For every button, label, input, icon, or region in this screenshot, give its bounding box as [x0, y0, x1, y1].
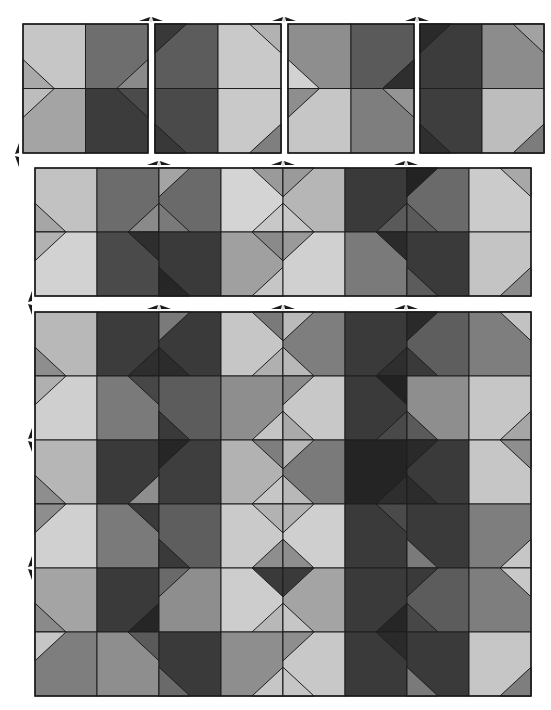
composite-8x6	[35, 312, 531, 696]
tile-cell	[407, 504, 469, 568]
double-arrow-horizontal-icon	[147, 161, 171, 166]
tile-cell	[221, 568, 283, 632]
tile-cell	[407, 168, 469, 232]
tile-cell	[469, 312, 531, 376]
tile-cell	[159, 632, 221, 696]
tile-cell	[345, 168, 407, 232]
tile-cell	[218, 24, 281, 89]
tile-cell	[35, 232, 97, 296]
tile-cell	[283, 232, 345, 296]
tile-cell	[35, 504, 97, 568]
double-arrow-horizontal-icon	[147, 305, 171, 310]
tile-cell	[345, 312, 407, 376]
block-1	[23, 24, 148, 153]
tile-cell	[345, 632, 407, 696]
tiling-diagram	[0, 0, 551, 710]
tile-cell	[221, 232, 283, 296]
tile-cell	[159, 440, 221, 504]
tile-cell	[159, 232, 221, 296]
tile-cell	[35, 632, 97, 696]
tile-cell	[221, 632, 283, 696]
block-3	[288, 24, 414, 153]
tile-cell	[221, 168, 283, 232]
tile-cell	[469, 504, 531, 568]
tile-cell	[97, 376, 159, 440]
tile-cell	[345, 232, 407, 296]
double-arrow-horizontal-icon	[272, 17, 296, 22]
tile-cell	[159, 312, 221, 376]
tile-cell	[469, 632, 531, 696]
tile-cell	[159, 168, 221, 232]
tile-cell	[283, 568, 345, 632]
tile-cell	[35, 440, 97, 504]
tile-cell	[345, 568, 407, 632]
tile-blocks	[23, 24, 544, 696]
double-arrow-vertical-icon	[15, 143, 19, 167]
tile-cell	[155, 89, 218, 154]
tile-cell	[351, 89, 414, 154]
tile-cell	[97, 168, 159, 232]
tile-cell	[283, 440, 345, 504]
double-arrow-horizontal-icon	[271, 305, 295, 310]
tile-cell	[469, 440, 531, 504]
tile-cell	[159, 504, 221, 568]
tile-cell	[482, 24, 544, 89]
tile-cell	[407, 376, 469, 440]
tile-cell	[35, 168, 97, 232]
double-arrow-horizontal-icon	[394, 305, 418, 310]
tile-cell	[35, 376, 97, 440]
tile-cell	[407, 440, 469, 504]
tile-cell	[97, 232, 159, 296]
tile-cell	[86, 89, 149, 154]
tile-cell	[407, 232, 469, 296]
tile-cell	[407, 312, 469, 376]
tile-cell	[221, 504, 283, 568]
tile-cell	[407, 632, 469, 696]
tile-cell	[35, 568, 97, 632]
tile-cell	[155, 24, 218, 89]
tile-cell	[23, 89, 86, 154]
tile-cell	[97, 312, 159, 376]
tile-cell	[159, 568, 221, 632]
tile-cell	[283, 376, 345, 440]
tile-cell	[345, 440, 407, 504]
tile-cell	[97, 568, 159, 632]
tile-cell	[469, 168, 531, 232]
tile-cell	[345, 504, 407, 568]
tile-cell	[288, 89, 351, 154]
tile-cell	[97, 504, 159, 568]
tile-cell	[221, 376, 283, 440]
block-4	[420, 24, 544, 153]
double-arrow-horizontal-icon	[139, 17, 163, 22]
double-arrow-horizontal-icon	[271, 161, 295, 166]
double-arrow-vertical-icon	[28, 291, 32, 315]
tile-cell	[482, 89, 544, 154]
double-arrow-horizontal-icon	[405, 17, 429, 22]
tile-cell	[469, 232, 531, 296]
tile-cell	[97, 632, 159, 696]
tile-cell	[218, 89, 281, 154]
tile-cell	[283, 632, 345, 696]
tile-cell	[420, 89, 482, 154]
tile-cell	[35, 312, 97, 376]
double-arrow-horizontal-icon	[394, 161, 418, 166]
tile-cell	[407, 568, 469, 632]
tile-cell	[469, 376, 531, 440]
tile-cell	[469, 568, 531, 632]
tile-cell	[288, 24, 351, 89]
tile-cell	[97, 440, 159, 504]
tile-cell	[283, 504, 345, 568]
tile-cell	[420, 24, 482, 89]
tile-cell	[283, 168, 345, 232]
strip-8x2	[35, 168, 531, 296]
block-2	[155, 24, 281, 153]
tile-cell	[221, 440, 283, 504]
tile-cell	[283, 312, 345, 376]
tile-cell	[86, 24, 149, 89]
tile-cell	[221, 312, 283, 376]
tile-cell	[159, 376, 221, 440]
double-arrow-vertical-icon	[28, 556, 32, 580]
tile-cell	[345, 376, 407, 440]
double-arrow-vertical-icon	[28, 428, 32, 452]
tile-cell	[23, 24, 86, 89]
